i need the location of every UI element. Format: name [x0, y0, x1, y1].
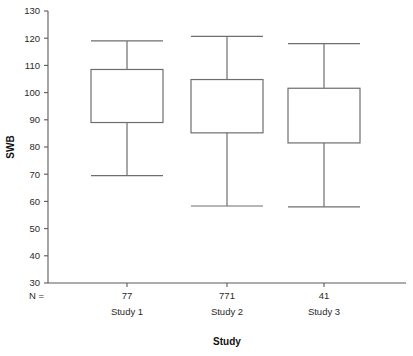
y-tick-label: 70	[29, 169, 40, 180]
y-tick-label: 110	[25, 60, 40, 71]
n-value-label: 771	[219, 290, 235, 301]
x-axis-title: Study	[213, 336, 241, 347]
box-rect	[191, 80, 263, 133]
box-plot-group	[191, 36, 263, 206]
box-plot-group	[288, 44, 360, 207]
box-rect	[91, 69, 163, 122]
y-tick-label: 50	[29, 223, 40, 234]
y-tick-label: 100	[24, 87, 40, 98]
category-label: Study 3	[308, 306, 340, 317]
n-prefix-label: N =	[29, 290, 45, 301]
box-plot-group	[91, 41, 163, 176]
y-tick-label: 90	[29, 114, 40, 125]
n-value-label: 41	[319, 290, 330, 301]
y-axis-title: SWB	[5, 135, 16, 158]
y-tick-label: 120	[24, 33, 40, 44]
y-tick-label: 130	[24, 5, 40, 16]
category-label: Study 1	[111, 306, 143, 317]
n-value-label: 77	[122, 290, 133, 301]
category-label: Study 2	[211, 306, 243, 317]
box-plot-figure: 13012011010090807060504030SWBN =7777141S…	[0, 0, 413, 356]
box-plot-canvas: 13012011010090807060504030SWBN =7777141S…	[0, 0, 413, 356]
box-rect	[288, 88, 360, 143]
y-tick-label: 80	[29, 141, 40, 152]
y-tick-label: 40	[29, 250, 40, 261]
y-tick-label: 60	[29, 196, 40, 207]
y-tick-label: 30	[29, 277, 40, 288]
